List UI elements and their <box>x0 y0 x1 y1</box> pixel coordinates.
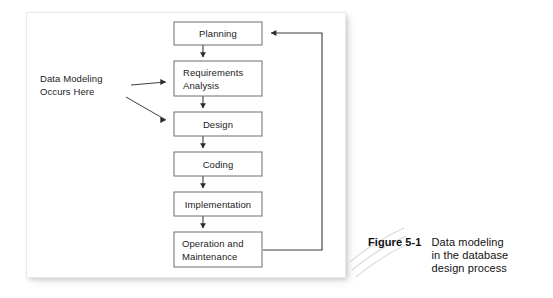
annotation-arrow-to-requirements <box>131 82 166 85</box>
figure-caption-number: Figure 5-1 <box>368 236 422 249</box>
process-box-operation-maintenance[interactable]: Operation and Maintenance <box>174 232 262 267</box>
figure-caption-line3: design process <box>432 262 509 275</box>
process-box-implementation-label: Implementation <box>185 199 251 210</box>
process-box-requirements-label-line1: Requirements <box>183 67 243 78</box>
annotation-label-line2: Occurs Here <box>40 86 94 97</box>
process-box-coding-label: Coding <box>203 159 234 170</box>
figure-panel: Data Modeling Occurs Here Planning Requi… <box>27 13 345 277</box>
process-flow-diagram: Data Modeling Occurs Here Planning Requi… <box>27 13 345 277</box>
feedback-loop-line <box>263 33 322 250</box>
process-box-requirements-analysis[interactable]: Requirements Analysis <box>174 61 262 96</box>
figure-caption-line1: Data modeling <box>432 236 509 249</box>
process-box-design[interactable]: Design <box>174 112 262 136</box>
process-box-planning[interactable]: Planning <box>174 22 262 45</box>
process-box-coding[interactable]: Coding <box>174 152 262 176</box>
process-box-implementation[interactable]: Implementation <box>174 192 262 216</box>
process-box-operation-label-line1: Operation and <box>182 238 244 249</box>
figure-caption-text: Data modeling in the database design pro… <box>432 236 509 275</box>
process-box-requirements-label-line2: Analysis <box>183 80 219 91</box>
process-box-planning-label: Planning <box>199 28 237 39</box>
process-box-design-label: Design <box>203 119 233 130</box>
figure-caption-line2: in the database <box>432 249 509 262</box>
annotation-arrow-to-design <box>126 97 166 120</box>
figure-caption: Figure 5-1 Data modeling in the database… <box>368 236 548 275</box>
annotation-label-line1: Data Modeling <box>40 73 103 84</box>
process-box-operation-label-line2: Maintenance <box>182 251 238 262</box>
